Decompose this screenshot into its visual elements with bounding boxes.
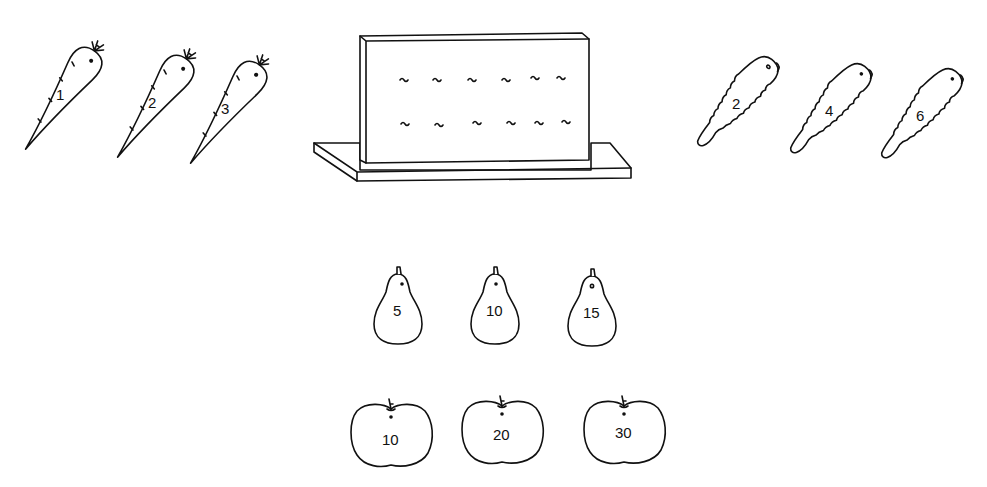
cucumber-label: 2 [732,95,740,112]
pear-2: 10 [471,267,519,344]
apple-3: 30 [584,396,665,463]
cucumber-3: 6 [873,60,968,168]
pear-1: 5 [374,267,422,344]
pear-label: 5 [393,302,401,319]
apple-label: 20 [493,426,510,443]
pear-label: 15 [583,304,600,321]
apple-group: 10 20 30 [351,396,665,466]
apple-label: 30 [615,424,632,441]
pear-3: 15 [568,269,616,346]
pear-group: 5 10 15 [374,267,616,346]
carrot-group: 1 2 3 [13,34,279,173]
cucumber-1: 2 [689,48,784,156]
cucumber-group: 2 4 6 [689,48,968,168]
illustration-canvas: 1 2 3 [0,0,987,487]
carrot-label: 1 [56,86,64,103]
pegboard-board [360,33,589,163]
apple-2: 20 [462,396,543,463]
apple-label: 10 [382,431,399,448]
carrot-2: 2 [105,42,206,167]
carrot-label: 2 [148,94,156,111]
carrot-1: 1 [13,34,114,159]
pear-label: 10 [486,302,503,319]
cucumber-label: 6 [916,107,924,124]
carrot-label: 3 [221,100,229,117]
apple-1: 10 [351,399,432,466]
cucumber-label: 4 [825,102,833,119]
pegboard [314,33,631,181]
cucumber-2: 4 [782,55,877,163]
